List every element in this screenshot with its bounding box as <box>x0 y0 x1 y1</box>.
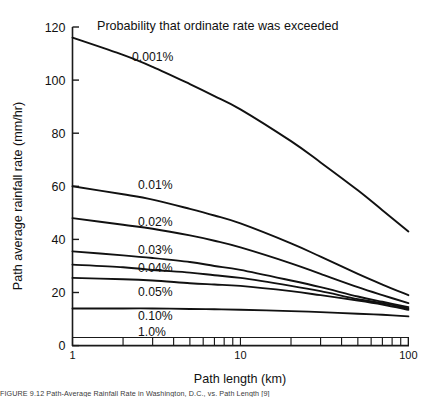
curve-010 <box>73 308 409 316</box>
curve-label: 0.04% <box>138 261 173 275</box>
y-tick-label: 80 <box>52 127 66 141</box>
y-tick-label: 120 <box>45 21 66 35</box>
y-tick-label: 40 <box>52 233 66 247</box>
curve-002 <box>73 218 409 303</box>
curve-labels: 0.001%0.01%0.02%0.03%0.04%0.05%0.10%1.0% <box>132 50 173 339</box>
x-tick-label: 100 <box>399 349 417 361</box>
figure-container: 020406080100120 110100 0.001%0.01%0.02%0… <box>0 0 445 405</box>
x-axis-ticks <box>73 337 409 345</box>
curve-label: 1.0% <box>138 325 166 339</box>
y-axis-tick-labels: 020406080100120 <box>45 21 66 354</box>
curve-label: 0.001% <box>132 50 173 64</box>
curve-label: 0.10% <box>138 309 173 323</box>
chart-axes <box>72 27 409 346</box>
y-tick-label: 0 <box>59 339 66 353</box>
chart-curves <box>73 38 409 317</box>
x-axis-label: Path length (km) <box>194 372 286 386</box>
y-tick-label: 100 <box>45 74 66 88</box>
x-axis-tick-labels: 110100 <box>69 349 417 361</box>
y-tick-label: 20 <box>52 286 66 300</box>
curve-label: 0.01% <box>138 178 173 192</box>
curve-label: 0.03% <box>138 243 173 257</box>
x-tick-label: 10 <box>234 349 246 361</box>
curve-label: 0.05% <box>138 285 173 299</box>
rainfall-rate-chart: 020406080100120 110100 0.001%0.01%0.02%0… <box>0 0 445 405</box>
chart-title: Probability that ordinate rate was excee… <box>97 19 339 33</box>
x-tick-label: 1 <box>69 349 75 361</box>
curve-0001 <box>73 38 409 232</box>
caption-clip-mask <box>0 397 445 405</box>
y-axis-label: Path average rainfall rate (mm/hr) <box>11 102 25 290</box>
y-tick-label: 60 <box>52 180 66 194</box>
curve-label: 0.02% <box>138 215 173 229</box>
curve-005 <box>73 278 409 310</box>
